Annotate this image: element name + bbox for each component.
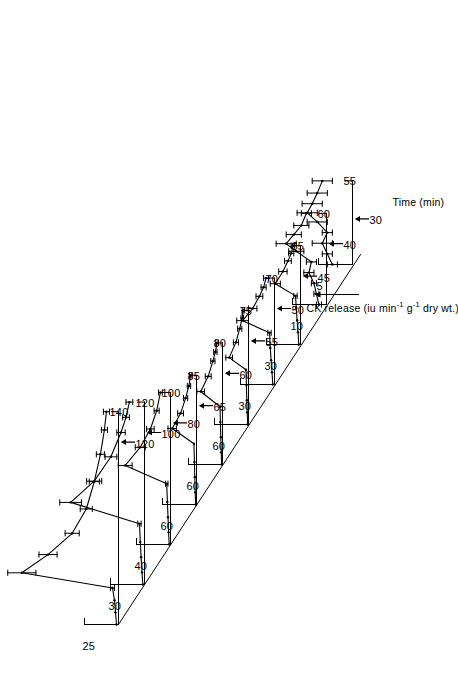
end-label-9: 60 xyxy=(317,208,330,219)
arrow-label-6: 55 xyxy=(265,336,278,347)
arrow-label-2: 100 xyxy=(161,428,180,439)
y-scale-label-5: 60 xyxy=(186,480,199,491)
y-scale-label-8: 30 xyxy=(264,360,277,371)
y-scale-label-6: 60 xyxy=(212,440,225,451)
y-scale-label-2: 30 xyxy=(108,600,121,611)
y-axis-title: CK release (iu min-1 g-1 dry wt.) xyxy=(306,300,458,312)
arrow-label-5: 60 xyxy=(239,369,252,380)
x-axis-title: Time (min) xyxy=(392,196,444,207)
trace-group-1 xyxy=(7,409,134,626)
trace-line xyxy=(70,402,142,584)
trace-line xyxy=(21,411,116,624)
arrow-label-9: 40 xyxy=(343,239,356,250)
arrow-label-3: 80 xyxy=(187,418,200,429)
trace-line xyxy=(286,213,319,304)
arrow-label-4: 65 xyxy=(213,401,226,412)
y-axis-title-text: CK release (iu min-1 g-1 dry wt.) xyxy=(306,301,458,313)
y-scale-label-3: 40 xyxy=(134,560,147,571)
end-label-7: 70 xyxy=(265,273,278,284)
end-label-6: 75 xyxy=(239,305,252,316)
y-scale-label-1: 25 xyxy=(82,640,95,651)
trace-group-9 xyxy=(276,210,342,306)
y-scale-label-9: 10 xyxy=(290,320,303,331)
end-label-8: 65 xyxy=(291,240,304,251)
arrow-label-7: 50 xyxy=(291,304,304,315)
end-label-1: 140 xyxy=(109,406,128,417)
end-label-5: 80 xyxy=(213,337,226,348)
end-label-4: 85 xyxy=(187,370,200,381)
trace-group-10 xyxy=(297,178,368,267)
y-scale-label-10: 5 xyxy=(316,280,322,291)
y-scale-label-4: 60 xyxy=(160,520,173,531)
end-label-3: 100 xyxy=(161,387,180,398)
arrow-label-10: 30 xyxy=(369,214,382,225)
arrow-label-1: 120 xyxy=(135,438,154,449)
end-label-10: 55 xyxy=(343,175,356,186)
y-scale-label-7: 30 xyxy=(238,400,251,411)
end-label-2: 120 xyxy=(135,397,154,408)
trace-group-2 xyxy=(59,399,160,585)
